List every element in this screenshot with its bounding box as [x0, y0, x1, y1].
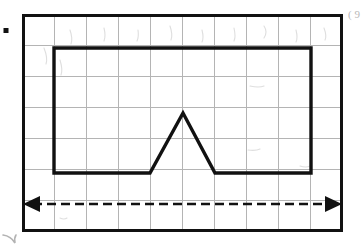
- grid-figure: ( 9: [0, 0, 363, 252]
- bullet-dot: [4, 28, 9, 33]
- corner-pencil-mark: [3, 235, 16, 243]
- margin-pencil-mark: ( 9: [348, 8, 360, 21]
- dimension-arrow-head-left: [23, 196, 40, 212]
- figure-page: ( 9: [0, 0, 363, 252]
- dimension-arrow-head-right: [325, 196, 342, 212]
